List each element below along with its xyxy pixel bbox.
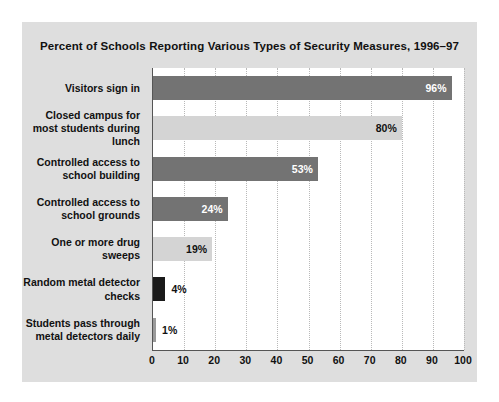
bar (153, 277, 165, 301)
x-axis-tick-label: 40 (271, 354, 283, 366)
bar-value-label: 96% (426, 82, 447, 94)
bar-row: 96% (153, 68, 464, 108)
plot-area: 96%80%53%24%19%4%1% (152, 68, 464, 351)
x-axis-tick-label: 50 (302, 354, 314, 366)
bar: 80% (153, 116, 402, 140)
bar-row: 24% (153, 189, 464, 229)
bar-value-label: 4% (171, 277, 186, 301)
category-label: Controlled access to school building (22, 149, 140, 189)
chart-title: Percent of Schools Reporting Various Typ… (22, 40, 477, 52)
bar-value-label: 19% (186, 243, 207, 255)
bar-row: 53% (153, 149, 464, 189)
category-label: Random metal detector checks (22, 269, 140, 309)
bar: 19% (153, 237, 212, 261)
bar: 96% (153, 76, 452, 100)
bar (153, 318, 156, 342)
x-axis-tick-label: 60 (333, 354, 345, 366)
x-axis-tick-label: 70 (364, 354, 376, 366)
bar-row: 1% (153, 310, 464, 350)
x-axis-tick-label: 20 (208, 354, 220, 366)
category-label: One or more drug sweeps (22, 229, 140, 269)
bar: 53% (153, 157, 318, 181)
bar-row: 19% (153, 229, 464, 269)
bar: 24% (153, 197, 228, 221)
bar-row: 4% (153, 269, 464, 309)
category-axis-labels: Visitors sign inClosed campus for most s… (22, 68, 146, 350)
value-axis-labels: 0102030405060708090100 (152, 354, 463, 372)
bar-value-label: 80% (376, 122, 397, 134)
category-label: Visitors sign in (22, 68, 140, 108)
bar-row: 80% (153, 108, 464, 148)
category-label: Controlled access to school grounds (22, 189, 140, 229)
category-label: Closed campus for most students during l… (22, 108, 140, 148)
x-axis-tick-label: 100 (454, 354, 472, 366)
x-axis-tick-label: 30 (239, 354, 251, 366)
x-axis-tick-label: 90 (426, 354, 438, 366)
x-axis-tick-label: 10 (177, 354, 189, 366)
x-axis-tick-label: 80 (395, 354, 407, 366)
bar-value-label: 1% (162, 318, 177, 342)
gridline (464, 68, 465, 350)
category-label: Students pass through metal detectors da… (22, 310, 140, 350)
bar-value-label: 24% (202, 203, 223, 215)
bar-value-label: 53% (292, 163, 313, 175)
bar-series: 96%80%53%24%19%4%1% (153, 68, 464, 350)
x-axis-tick-label: 0 (149, 354, 155, 366)
figure-card: Percent of Schools Reporting Various Typ… (22, 22, 477, 382)
